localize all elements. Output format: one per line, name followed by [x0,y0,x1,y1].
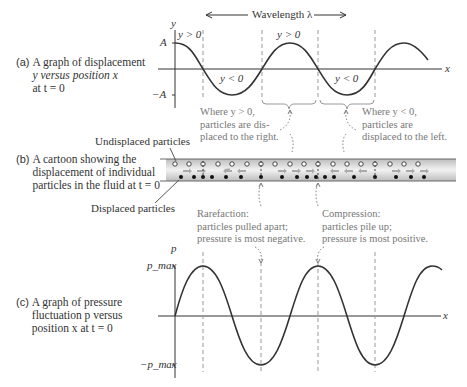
tick-minus-A: −A [152,88,166,100]
region-y-negative-1: y < 0 [220,72,243,84]
note-line: placed to the right. [200,131,279,144]
y-axis-label: y [171,17,176,29]
p-axis-label: p [171,242,177,254]
note-line: particles pulled apart; [197,221,305,234]
wavelength-label: Wavelength λ [252,8,312,20]
note-line: pressure is most positive. [322,233,428,246]
rarefaction-note: Rarefaction: particles pulled apart; pre… [197,208,305,246]
caption-c: (c) A graph of pressure fluctuation p ve… [16,296,123,335]
note-line: Compression: [322,208,428,221]
caption-a: (a) A graph of displacement y versus pos… [16,56,145,95]
tick-minus-pmax: −p_max [140,358,177,370]
displaced-particles-label: Displaced particles [91,202,175,214]
caption-a-letter: (a) [16,56,29,68]
caption-b-line: displacement of individual [32,166,160,179]
note-line: Where y > 0, [200,106,279,119]
region-y-positive-2: y > 0 [277,28,300,40]
note-line: particles are dis- [200,119,279,132]
caption-b-letter: (b) [16,153,29,165]
note-line: particles are [362,119,447,132]
note-positive-displacement: Where y > 0, particles are dis- placed t… [200,106,279,144]
pressure-graph [158,252,442,378]
note-line: displaced to the left. [362,131,447,144]
compression-note: Compression: particles pile up; pressure… [322,208,428,246]
caption-b: (b) A cartoon showing the displacement o… [16,153,160,192]
tick-A: A [160,36,167,48]
note-negative-displacement: Where y < 0, particles are displaced to … [362,106,447,144]
caption-b-line: A cartoon showing the [32,153,160,166]
undisplaced-particles-label: Undisplaced particles [95,135,190,147]
caption-a-line: at t = 0 [32,82,145,95]
region-y-negative-2: y < 0 [335,72,358,84]
caption-c-line: A graph of pressure [32,296,123,309]
x-axis-label-c: x [443,309,448,321]
tick-pmax: p_max [147,259,176,271]
caption-c-line: position x at t = 0 [32,322,123,335]
note-line: Where y < 0, [362,106,447,119]
caption-a-line: y versus position x [32,69,145,82]
caption-a-line: A graph of displacement [32,56,145,69]
note-line: particles pile up; [322,221,428,234]
caption-c-line: fluctuation p versus [32,309,123,322]
note-line: Rarefaction: [197,208,305,221]
x-axis-label-a: x [445,62,450,74]
caption-c-letter: (c) [16,296,29,308]
note-line: pressure is most negative. [197,233,305,246]
region-y-positive-1: y > 0 [178,28,201,40]
particle-band [155,148,456,263]
caption-b-line: particles in the fluid at t = 0 [32,179,160,192]
